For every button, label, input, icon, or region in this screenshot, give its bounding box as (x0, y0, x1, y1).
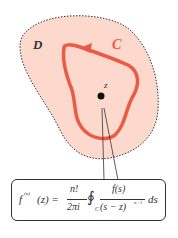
formula-lhs: f (19, 193, 22, 205)
formula-den: 2πi (67, 201, 80, 212)
formula-lhs-arg: (z) = (37, 193, 59, 205)
fraction-bar-1 (67, 199, 87, 200)
region-d-label: D (33, 37, 42, 53)
formula-int-num: f(s) (112, 183, 125, 194)
formula-num: n! (70, 183, 78, 194)
formula-lhs-sup: (n) (24, 191, 30, 196)
formula-box: f (n) (z) = n! 2πi ∮ C f(s) (s − z) n+1 … (11, 179, 166, 221)
formula-int-den-sup: n+1 (134, 200, 142, 205)
contour-c-label: C (112, 37, 121, 53)
formula-int-den: (s − z) (100, 201, 126, 212)
point-z-label: z (104, 80, 108, 90)
point-z (98, 93, 105, 100)
integral-sub: C (95, 206, 99, 212)
integral-icon: ∮ (87, 188, 95, 206)
formula-ds: ds (148, 193, 158, 205)
